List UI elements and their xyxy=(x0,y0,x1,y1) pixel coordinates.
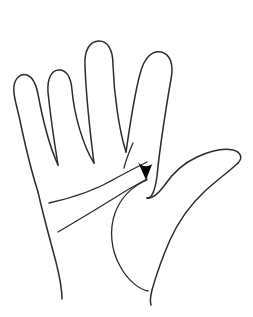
figure-canvas: Hand palm line drawing with pointer mark… xyxy=(0,0,253,317)
hand-line-drawing xyxy=(0,0,253,317)
